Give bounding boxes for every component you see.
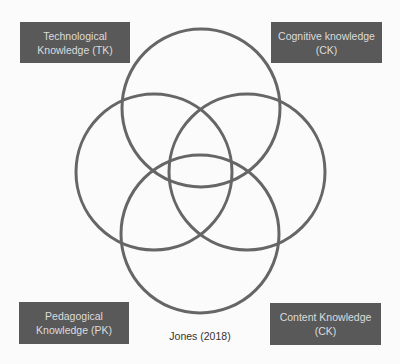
label-cognitive-knowledge: Cognitive knowledge (CK) (271, 22, 382, 63)
source-caption: Jones (2018) (150, 330, 250, 342)
label-line: (CK) (315, 324, 337, 338)
label-line: Content Knowledge (280, 310, 372, 324)
label-line: Pedagogical (45, 309, 103, 323)
label-line: Cognitive knowledge (278, 29, 375, 43)
label-line: Knowledge (PK) (36, 323, 112, 337)
label-technological-knowledge: Technological Knowledge (TK) (20, 22, 130, 63)
label-pedagogical-knowledge: Pedagogical Knowledge (PK) (19, 302, 129, 344)
label-content-knowledge: Content Knowledge (CK) (270, 303, 381, 345)
label-line: Technological (43, 29, 107, 43)
label-line: (CK) (316, 43, 338, 57)
label-line: Knowledge (TK) (37, 43, 112, 57)
